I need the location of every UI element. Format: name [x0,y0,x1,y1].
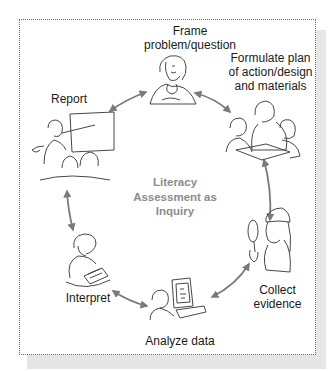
arrow-interpret-report [67,191,73,230]
arrow-report-frame [110,92,146,111]
presenter-audience-icon [32,112,114,180]
arrow-analyze-interpret [113,291,147,306]
stage-label-interpret: Interpret [58,291,118,305]
thinking-person-icon [150,56,196,104]
stage-label-formulate: Formulate plan of action/design and mate… [223,51,318,93]
stage-label-collect: Collect evidence [250,283,305,311]
arrow-frame-formulate [195,93,230,112]
center-title: Literacy Assessment as Inquiry [130,175,220,219]
stage-label-report: Report [44,92,94,106]
stage-label-frame: Frame problem/question [140,24,240,52]
person-writing-icon [66,234,110,287]
arrow-collect-analyze [212,264,249,297]
arrow-formulate-collect [264,160,270,220]
stage-label-analyze: Analyze data [140,334,220,348]
group-planning-icon [226,101,300,160]
computer-user-icon [150,278,206,320]
